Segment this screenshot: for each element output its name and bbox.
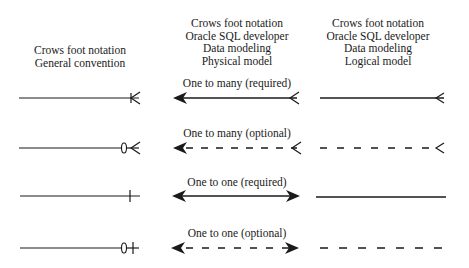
general-one-to-one-required-icon: [20, 190, 140, 202]
physical-one-to-one-required-icon: [172, 190, 300, 202]
physical-one-to-many-required-icon: [173, 92, 299, 104]
general-one-to-many-optional-icon: [19, 142, 140, 154]
logical-one-to-many-optional-icon: [320, 143, 444, 153]
general-one-to-one-optional-icon: [20, 242, 139, 254]
logical-one-to-many-required-icon: [320, 93, 444, 103]
physical-one-to-many-optional-icon: [173, 142, 301, 154]
general-one-to-many-required-icon: [19, 92, 140, 104]
physical-one-to-one-optional-icon: [171, 242, 299, 254]
notation-diagram: [0, 0, 469, 268]
